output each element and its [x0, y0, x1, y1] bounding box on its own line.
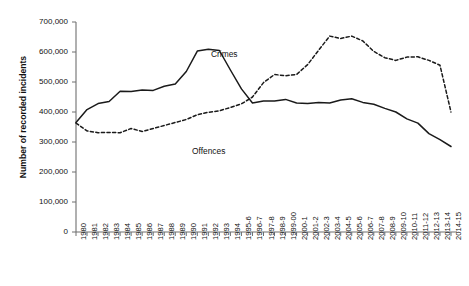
x-axis-tick-label: 1984 [123, 223, 132, 240]
x-axis-tick-label: 1980 [79, 223, 88, 240]
x-axis-tick-label: 2012-13 [432, 212, 441, 240]
x-axis-tick-label: 1999-00 [289, 212, 298, 240]
x-axis-tick-label: 2006-7 [366, 216, 375, 240]
x-axis-tick-label: 2005-6 [355, 216, 364, 240]
x-axis-tick-label: 1993 [222, 223, 231, 240]
x-axis-tick-label: 2008-9 [388, 216, 397, 240]
x-axis-tick-label: 1987 [156, 223, 165, 240]
x-axis-tick-label: 1995-6 [244, 216, 253, 240]
x-axis-tick-label: 2013-14 [443, 212, 452, 240]
series-line-offences [76, 36, 451, 133]
x-axis-tick-label: 2003-4 [333, 216, 342, 240]
x-axis-tick-label: 1992 [211, 223, 220, 240]
x-axis-tick-label: 2011-12 [421, 213, 430, 240]
x-axis-tick-label: 1983 [112, 223, 121, 240]
x-axis-tick-label: 1990 [189, 223, 198, 240]
series-line-crimes [76, 49, 451, 146]
series-label-offences: Offences [192, 146, 225, 156]
plot-area [0, 0, 469, 286]
x-axis-tick-label: 1996-7 [255, 216, 264, 240]
x-axis-tick-label: 2009-10 [399, 212, 408, 240]
x-axis-tick-label: 1991 [200, 223, 209, 240]
x-axis-tick-label: 2010-11 [410, 213, 419, 240]
x-axis-tick-label: 1998-9 [278, 216, 287, 240]
x-axis-tick-label: 2002-3 [322, 216, 331, 240]
x-axis-tick-label: 1989 [178, 223, 187, 240]
x-axis-tick-label: 1997-8 [267, 216, 276, 240]
x-axis-tick-label: 1988 [167, 223, 176, 240]
x-axis-tick-label: 1986 [145, 223, 154, 240]
x-axis-tick-label: 1994 [233, 223, 242, 240]
x-axis-tick-label: 1982 [101, 223, 110, 240]
x-axis-tick-label: 2004-5 [344, 216, 353, 240]
series-label-crimes: Crimes [211, 49, 238, 59]
x-axis-tick-label: 2001-2 [311, 216, 320, 240]
x-axis-tick-label: 2014-15 [454, 212, 463, 240]
chart-container: Number of recorded incidents 0100,000200… [0, 0, 469, 286]
x-axis-tick-label: 2000-1 [300, 216, 309, 240]
x-axis-tick-label: 1985 [134, 223, 143, 240]
x-axis-tick-label: 1981 [90, 223, 99, 240]
data-series [76, 36, 451, 146]
x-axis-tick-label: 2007-8 [377, 216, 386, 240]
